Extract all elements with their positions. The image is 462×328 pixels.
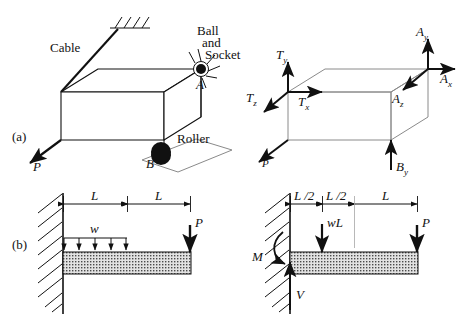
hatch-ground-icon (110, 17, 150, 28)
point-load-label: P (195, 216, 203, 230)
rigid-body-box (61, 69, 201, 140)
wall-hatch-icon (38, 194, 62, 312)
roller-label: Roller (177, 132, 210, 146)
point-b-label: B (146, 157, 154, 171)
panel-a-right-fbd (259, 39, 455, 170)
panel-b-tag: (b) (12, 238, 27, 252)
dimension-half-l2-label: L /2 (326, 189, 346, 203)
beam-body (63, 252, 191, 274)
cable-label: Cable (50, 41, 80, 55)
moment-arrow-icon (274, 232, 285, 264)
panel-b-left-beam (38, 193, 191, 314)
point-load-label: P (422, 216, 430, 230)
reaction-t-axes (264, 62, 322, 112)
resultant-load-label: wL (327, 216, 343, 230)
socket-label: Socket (205, 48, 240, 62)
point-a-label: A (196, 78, 204, 92)
fbd-load-p-label: P (262, 158, 269, 170)
panel-b-right-beam (265, 193, 418, 314)
reaction-tx-label: Tx (298, 95, 309, 112)
dimension-line (291, 196, 418, 248)
panel-a-tag: (a) (12, 130, 26, 144)
dimension-line (64, 196, 191, 212)
beam-body (290, 252, 418, 274)
load-p-label: P (33, 160, 41, 174)
reaction-by-label: By (396, 160, 408, 177)
distributed-load-label: w (90, 222, 99, 236)
dimension-l-label: L (382, 189, 389, 203)
reaction-az-label: Az (392, 92, 403, 109)
reaction-ax-label: Ax (440, 72, 452, 89)
shear-label: V (296, 288, 304, 302)
reaction-tz-label: Tz (246, 91, 257, 108)
dimension-l1-label: L (91, 189, 98, 203)
wall-hatch-icon (265, 194, 289, 312)
reaction-ay-label: Ay (416, 25, 428, 42)
moment-label: M (252, 250, 263, 264)
reaction-ty-label: Ty (276, 48, 287, 65)
dimension-l2-label: L (155, 189, 162, 203)
distributed-load-icon (64, 238, 127, 250)
dimension-half-l1-label: L /2 (294, 189, 314, 203)
